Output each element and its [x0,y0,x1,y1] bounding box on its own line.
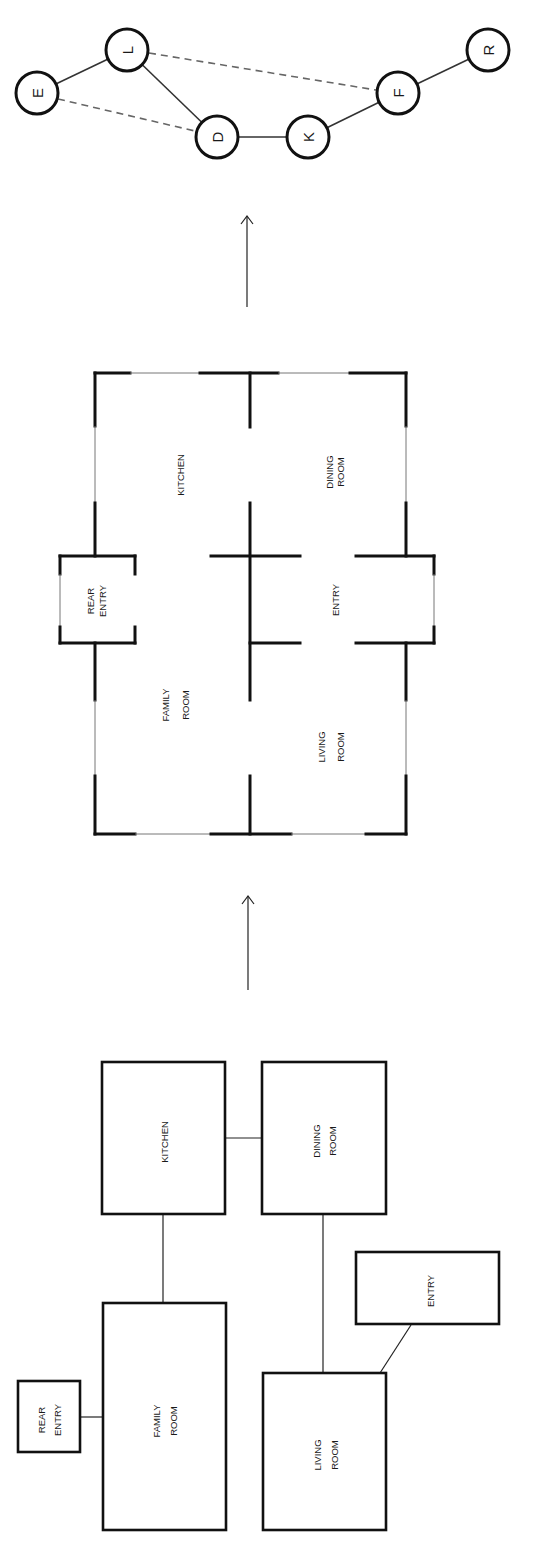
node-label: K [300,132,317,142]
graph-node-d: D [196,116,238,158]
room-box-rear-entry [18,1381,80,1452]
block-label-dining-2: ROOM [327,1126,338,1156]
graph-node-e: E [16,72,58,114]
node-label: D [209,131,226,142]
floor-label-family-1: FAMILY [160,688,171,722]
block-label-kitchen: KITCHEN [159,1121,170,1163]
node-label: L [119,46,136,54]
connector-entry-living [380,1325,411,1373]
graph-node-f: F [377,72,419,114]
floor-label-entry: ENTRY [330,583,341,616]
room-box-living [263,1373,386,1530]
block-label-dining-1: DINING [311,1124,322,1157]
block-label-family-1: FAMILY [151,1404,162,1438]
room-box-family [103,1303,226,1530]
floor-label-dining-2: ROOM [335,457,346,487]
floor-label-family-2: ROOM [180,690,191,720]
arrow-up-icon [242,896,254,990]
block-label-living-1: LIVING [312,1439,323,1470]
adjacency-graph: E L D K F R [16,29,509,158]
node-label: R [480,44,497,55]
graph-node-r: R [467,29,509,71]
floor-label-kitchen: KITCHEN [175,454,186,496]
block-label-rear-entry-1: REAR [36,1407,47,1434]
arrow-up-icon [241,216,253,307]
block-label-rear-entry-2: ENTRY [52,1403,63,1436]
edge-e-d-dashed [58,99,195,131]
edge-l-f-dashed [149,53,376,90]
diagram-canvas: E L D K F R [0,0,545,1564]
graph-node-k: K [287,116,329,158]
room-box-dining [262,1062,386,1214]
block-label-family-2: ROOM [168,1406,179,1436]
block-diagram: KITCHEN DINING ROOM ENTRY FAMILY ROOM RE… [18,1062,499,1530]
block-label-living-2: ROOM [329,1440,340,1470]
graph-node-l: L [106,29,148,71]
block-label-entry: ENTRY [425,1274,436,1307]
floor-plan: KITCHEN DINING ROOM REAR ENTRY ENTRY FAM… [60,373,434,834]
node-label: E [29,88,46,98]
floor-label-living-1: LIVING [316,731,327,762]
floor-label-dining-1: DINING [324,455,335,488]
floor-label-living-2: ROOM [335,732,346,762]
floor-label-rear-entry-1: REAR [85,588,96,615]
node-label: F [390,88,407,97]
floor-label-rear-entry-2: ENTRY [97,584,108,617]
